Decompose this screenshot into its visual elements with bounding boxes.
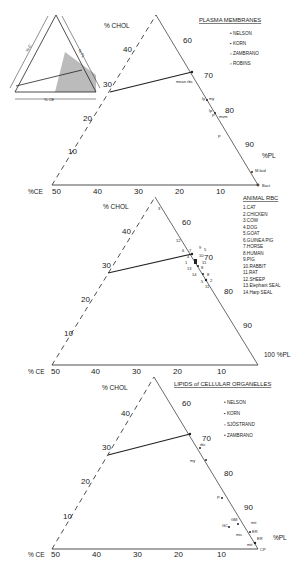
svg-text:20: 20 (81, 477, 90, 486)
svg-text:5: 5 (204, 247, 207, 252)
svg-text:1: 1 (185, 260, 188, 265)
svg-text:20: 20 (83, 114, 92, 123)
svg-text:7.HORSE: 7.HORSE (243, 244, 263, 249)
svg-text:my: my (209, 96, 214, 101)
svg-text:10: 10 (199, 253, 204, 258)
svg-text:ER: ER (252, 529, 258, 534)
svg-text:30: 30 (103, 80, 112, 89)
svg-text:30: 30 (102, 261, 111, 270)
svg-text:13.Elephant SEAL: 13.Elephant SEAL (243, 283, 281, 288)
svg-text:▫ ZAMBRANO: ▫ ZAMBRANO (230, 51, 259, 56)
svg-text:4.DOG: 4.DOG (243, 225, 258, 230)
svg-text:8: 8 (207, 272, 210, 277)
svg-text:14.Harp SEAL: 14.Harp SEAL (243, 290, 273, 295)
svg-text:• ZAMBRANO: • ZAMBRANO (224, 433, 253, 438)
svg-text:10: 10 (217, 367, 226, 376)
svg-text:my: my (190, 458, 195, 463)
svg-text:CP: CP (260, 547, 266, 552)
svg-text:20: 20 (173, 367, 182, 376)
svg-text:40: 40 (91, 367, 100, 376)
svg-text:%PL: %PL (262, 152, 276, 159)
svg-text:8: 8 (201, 265, 204, 270)
svg-text:M.laid: M.laid (255, 168, 266, 173)
svg-text:5.GOAT: 5.GOAT (243, 231, 260, 236)
svg-text:60: 60 (183, 36, 192, 45)
svg-text:60: 60 (182, 399, 191, 408)
svg-text:mean rbc: mean rbc (176, 79, 193, 84)
svg-text:%CE: %CE (28, 188, 43, 195)
svg-text:GM: GM (231, 517, 237, 522)
svg-text:▪ KORN: ▪ KORN (224, 411, 240, 416)
svg-text:% CHOL: % CHOL (103, 203, 129, 210)
svg-text:▫ ROBINS: ▫ ROBINS (230, 61, 251, 66)
svg-text:mvm: mvm (219, 114, 228, 119)
svg-text:70: 70 (204, 71, 213, 80)
svg-text:3.COW: 3.COW (243, 218, 259, 223)
svg-text:P: P (217, 495, 220, 500)
panel-lipids-organelles: LIPIDS of CELLULAR ORGANELLES % CHOL %PL… (28, 377, 287, 559)
svg-text:9.PIG: 9.PIG (243, 257, 255, 262)
inset-label-c: % C (24, 43, 32, 52)
svg-text:10: 10 (63, 512, 72, 521)
svg-text:9: 9 (199, 245, 202, 250)
svg-text:12.SHEEP: 12.SHEEP (243, 277, 265, 282)
svg-text:30: 30 (133, 550, 142, 559)
svg-text:13: 13 (187, 266, 192, 271)
panel-title: PLASMA MEMBRANES (199, 17, 261, 23)
svg-text:5: 5 (201, 279, 204, 284)
svg-text:2.CHICKEN: 2.CHICKEN (243, 212, 268, 217)
svg-text:12: 12 (176, 238, 181, 243)
inset-label-ce: % CE (44, 97, 55, 102)
svg-text:P: P (212, 113, 215, 118)
svg-text:• NELSON: • NELSON (230, 31, 252, 36)
svg-text:80: 80 (224, 469, 233, 478)
svg-text:40: 40 (92, 550, 101, 559)
svg-text:% CHOL: % CHOL (104, 22, 130, 29)
svg-text:30: 30 (132, 367, 141, 376)
svg-text:50: 50 (51, 367, 60, 376)
svg-text:2: 2 (210, 278, 213, 283)
svg-text:8.HUMAN: 8.HUMAN (243, 251, 264, 256)
svg-text:6: 6 (182, 248, 185, 253)
svg-text:% CHOL: % CHOL (102, 384, 128, 391)
svg-text:mit: mit (251, 520, 257, 525)
svg-text:30: 30 (134, 187, 143, 196)
svg-text:90: 90 (243, 321, 252, 330)
svg-text:10: 10 (68, 147, 77, 156)
svg-text:30: 30 (102, 443, 111, 452)
svg-text:40: 40 (121, 409, 130, 418)
svg-text:7: 7 (189, 248, 192, 253)
svg-text:ER: ER (257, 536, 263, 541)
svg-text:100 %PL: 100 %PL (264, 351, 291, 358)
svg-text:• NELSON: • NELSON (224, 400, 246, 405)
svg-text:% CE: % CE (28, 368, 45, 375)
svg-text:20: 20 (174, 550, 183, 559)
svg-text:Bact: Bact (262, 183, 271, 188)
svg-text:10: 10 (216, 187, 225, 196)
svg-text:40: 40 (93, 187, 102, 196)
svg-text:60: 60 (182, 218, 191, 227)
svg-text:50: 50 (51, 550, 60, 559)
svg-text:GC: GC (222, 523, 228, 528)
panel-animal-rbc: ANIMAL RBC % CHOL 100 %PL 1.CAT 2.CHICKE… (28, 195, 291, 376)
ternary-figure: % C % PL % CE PLASMA MEMBRANES % CHOL %P… (0, 0, 306, 571)
svg-text:rbc: rbc (200, 442, 206, 447)
svg-text:10: 10 (64, 329, 73, 338)
svg-text:ANIMAL RBC: ANIMAL RBC (243, 195, 278, 201)
svg-text:10.RABBIT: 10.RABBIT (243, 264, 266, 269)
svg-text:ly: ly (202, 96, 205, 101)
svg-text:%PL: %PL (273, 534, 287, 541)
svg-text:20: 20 (81, 295, 90, 304)
svg-text:LIPIDS of CELLULAR ORGANELLES: LIPIDS of CELLULAR ORGANELLES (174, 381, 271, 387)
svg-text:▫ SJÖSTRAND: ▫ SJÖSTRAND (224, 421, 255, 427)
svg-text:80: 80 (224, 287, 233, 296)
svg-text:20: 20 (175, 187, 184, 196)
svg-text:P: P (218, 134, 221, 139)
svg-text:1.CAT: 1.CAT (243, 205, 256, 210)
svg-text:11.RAT: 11.RAT (243, 270, 258, 275)
panel-plasma-membranes: PLASMA MEMBRANES % CHOL %PL • NELSON ▪ K… (28, 15, 276, 196)
svg-text:50: 50 (52, 187, 61, 196)
svg-text:10: 10 (217, 550, 226, 559)
svg-text:40: 40 (122, 227, 131, 236)
svg-text:6.GUINEA PIG: 6.GUINEA PIG (243, 238, 274, 243)
